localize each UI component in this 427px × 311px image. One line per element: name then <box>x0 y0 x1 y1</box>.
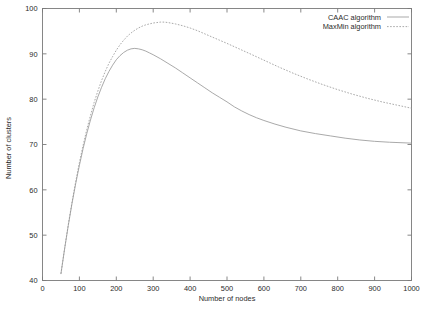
y-axis-title: Number of clusters <box>4 117 13 179</box>
y-tick-label: 80 <box>29 95 37 104</box>
x-tick-label: 500 <box>221 284 233 293</box>
x-tick-label: 700 <box>295 284 307 293</box>
line-chart: 405060708090100 010020030040050060070080… <box>0 0 427 311</box>
chart-background <box>0 0 427 311</box>
x-tick-label: 900 <box>368 284 380 293</box>
y-tick-label: 50 <box>29 231 37 240</box>
x-tick-label: 1000 <box>403 284 419 293</box>
legend-label-0: CAAC algorithm <box>328 13 381 22</box>
x-axis-title: Number of nodes <box>199 294 256 303</box>
y-tick-label: 40 <box>29 276 37 285</box>
x-tick-label: 400 <box>184 284 196 293</box>
y-tick-label: 90 <box>29 50 37 59</box>
x-tick-label: 300 <box>147 284 159 293</box>
chart-container: 405060708090100 010020030040050060070080… <box>0 0 427 311</box>
x-tick-label: 0 <box>40 284 44 293</box>
x-tick-label: 200 <box>110 284 122 293</box>
y-tick-label: 60 <box>29 186 37 195</box>
x-tick-label: 100 <box>73 284 85 293</box>
legend-label-1: MaxMin algorithm <box>323 22 381 31</box>
y-tick-label: 100 <box>25 4 37 13</box>
y-tick-label: 70 <box>29 140 37 149</box>
x-tick-label: 600 <box>258 284 270 293</box>
x-tick-label: 800 <box>332 284 344 293</box>
